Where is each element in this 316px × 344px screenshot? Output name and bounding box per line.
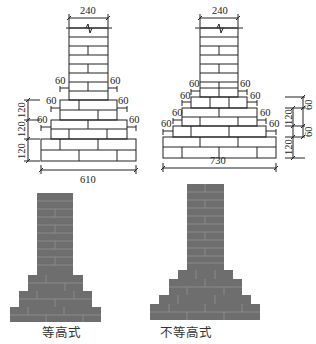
svg-text:120: 120 <box>283 139 294 155</box>
left-section-drawing <box>24 14 138 174</box>
svg-text:60: 60 <box>110 75 121 86</box>
svg-text:60: 60 <box>129 114 140 125</box>
svg-text:60: 60 <box>180 90 191 101</box>
svg-text:60: 60 <box>46 95 57 106</box>
svg-text:610: 610 <box>80 174 96 185</box>
unequal-height-caption: 不等高式 <box>160 322 212 341</box>
svg-text:60: 60 <box>303 100 314 111</box>
svg-text:60: 60 <box>250 90 261 101</box>
svg-text:240: 240 <box>80 5 96 16</box>
svg-text:60: 60 <box>303 127 314 138</box>
svg-text:120: 120 <box>16 102 27 118</box>
left-base-width-dimension <box>39 165 138 174</box>
brick-footing-diagram: 240 60 60 60 60 60 60 610 120 120 120 <box>0 0 316 344</box>
svg-text:240: 240 <box>212 5 228 16</box>
svg-text:120: 120 <box>16 143 27 159</box>
svg-text:60: 60 <box>55 75 66 86</box>
unequal-height-brick-rendering <box>150 184 260 320</box>
equal-height-caption: 等高式 <box>42 322 81 341</box>
svg-text:60: 60 <box>172 107 183 118</box>
svg-text:60: 60 <box>260 107 271 118</box>
svg-text:60: 60 <box>37 114 48 125</box>
left-dimension-labels: 240 60 60 60 60 60 60 610 120 120 120 <box>16 5 140 185</box>
svg-text:60: 60 <box>189 78 200 89</box>
svg-text:730: 730 <box>210 155 226 166</box>
svg-text:120: 120 <box>16 121 27 137</box>
equal-height-brick-rendering <box>10 193 101 322</box>
svg-text:120: 120 <box>283 109 294 125</box>
svg-text:60: 60 <box>118 95 129 106</box>
svg-text:60: 60 <box>269 118 280 129</box>
svg-text:60: 60 <box>161 118 172 129</box>
svg-text:60: 60 <box>240 78 251 89</box>
